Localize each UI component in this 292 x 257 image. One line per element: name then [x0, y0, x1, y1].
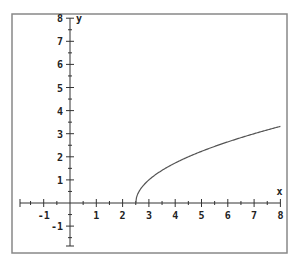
y-tick-label: 2 [57, 152, 63, 163]
y-tick-label: 4 [57, 106, 63, 117]
y-tick-label: 7 [57, 36, 63, 47]
function-graph: -112345678-112345678 x y [0, 0, 292, 257]
y-axis-label: y [76, 13, 82, 24]
y-tick-label: 3 [57, 129, 63, 140]
x-tick-label: 6 [225, 210, 231, 221]
x-tick-label: 7 [251, 210, 257, 221]
y-tick-label: 8 [57, 13, 63, 24]
x-tick-label: 4 [172, 210, 178, 221]
x-tick-label: 1 [93, 210, 99, 221]
x-axis-label: x [276, 186, 282, 197]
x-tick-label: 2 [120, 210, 126, 221]
x-tick-label: -1 [38, 210, 50, 221]
x-tick-label: 3 [146, 210, 152, 221]
y-tick-label: 6 [57, 59, 63, 70]
y-tick-label: 1 [57, 175, 63, 186]
y-tick-label: 5 [57, 83, 63, 94]
x-tick-label: 5 [198, 210, 204, 221]
y-tick-label: -1 [51, 221, 63, 232]
x-tick-label: 8 [277, 210, 283, 221]
